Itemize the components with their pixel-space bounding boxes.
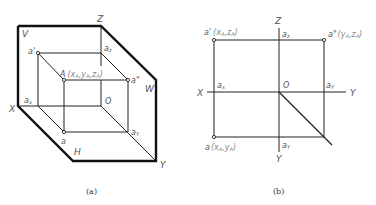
label-a-prime-a: a'	[28, 47, 35, 56]
label-Y-bottom-b: Y	[276, 154, 283, 164]
proj-line	[101, 53, 128, 80]
figure-a: Z V W H X Y O a' a" a az ax aY A(xA,yA,z…	[8, 14, 167, 196]
label-a-x-a: ax	[24, 96, 32, 105]
label-a-x-b: ax	[217, 81, 225, 90]
proj-line	[38, 106, 64, 132]
caption-a: (a)	[86, 187, 97, 196]
caption-b: (b)	[273, 187, 284, 196]
projection-diagrams: Z V W H X Y O a' a" a az ax aY A(xA,yA,z…	[0, 0, 376, 205]
figure-b: Z X Y Y O a'(xA,zA) a"(yA,zA) a(xA,yA) a…	[196, 16, 362, 196]
label-a-y-a: aY	[131, 128, 140, 137]
point-a-marker-b	[212, 135, 215, 138]
label-a-double-prime-a: a"	[131, 76, 140, 85]
label-a-double-prime-b: a"(yA,zA)	[328, 30, 362, 39]
label-A-coords-a: A(xA,yA,zA)	[59, 70, 103, 79]
label-a-b: a(xA,yA)	[205, 143, 236, 152]
label-Y-a: Y	[160, 160, 167, 170]
label-Z-a: Z	[96, 14, 104, 24]
label-a-z-a: az	[104, 44, 112, 53]
label-X-a: X	[8, 104, 16, 114]
label-V-plane: V	[22, 29, 29, 39]
point-a-double-prime-marker	[126, 78, 129, 81]
point-a-prime-marker-b	[212, 38, 215, 41]
label-Y-right-b: Y	[350, 88, 357, 98]
label-H-plane: H	[74, 147, 81, 157]
label-a-y-bottom-b: aY	[282, 141, 291, 150]
label-a-a: a	[61, 137, 66, 146]
point-a-marker	[62, 130, 65, 133]
point-a-prime-marker	[36, 51, 39, 54]
label-O-b: O	[283, 81, 289, 90]
point-a-double-prime-marker-b	[322, 38, 325, 41]
label-Z-b: Z	[274, 16, 282, 26]
label-a-prime-b: a'(xA,zA)	[204, 28, 238, 37]
label-X-b: X	[196, 88, 204, 98]
label-O-a: O	[105, 97, 111, 106]
label-a-z-b: az	[282, 30, 290, 39]
label-W-plane: W	[145, 84, 155, 94]
label-a-y-right-b: aY	[326, 81, 335, 90]
